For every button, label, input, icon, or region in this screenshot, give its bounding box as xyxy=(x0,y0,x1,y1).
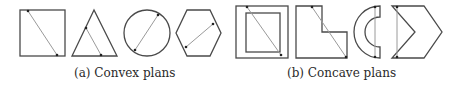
caption-concave-plans: (b) Concave plans xyxy=(287,66,396,80)
concave-half-ring xyxy=(354,6,380,59)
convex-circle xyxy=(124,10,170,56)
convex-triangle xyxy=(72,10,117,56)
convex-square xyxy=(20,10,65,57)
caption-convex-plans: (a) Convex plans xyxy=(74,66,176,80)
concave-l-shape xyxy=(296,6,347,59)
concave-chevron xyxy=(392,6,442,59)
convex-hexagon xyxy=(176,10,221,56)
concave-square-with-hole xyxy=(236,6,288,58)
